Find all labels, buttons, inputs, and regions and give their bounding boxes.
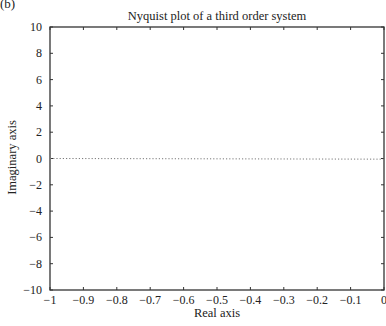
y-tick-label: −2 (29, 178, 42, 192)
x-tick-label: 0 (381, 293, 386, 307)
x-tick-label: −0.5 (206, 293, 228, 307)
y-tick-label: −6 (29, 230, 42, 244)
x-tick-label: −0.1 (340, 293, 362, 307)
x-tick-label: −0.4 (240, 293, 262, 307)
x-tick-label: −1 (44, 293, 57, 307)
y-tick-label: 0 (36, 152, 42, 166)
x-tick-label: −0.8 (106, 293, 128, 307)
y-tick-label: 6 (36, 73, 42, 87)
x-tick-label: −0.3 (273, 293, 295, 307)
x-tick-label: −0.2 (306, 293, 328, 307)
x-tick-label: −0.9 (73, 293, 95, 307)
x-tick-label: −0.7 (139, 293, 161, 307)
plot-area: −1−0.9−0.8−0.7−0.6−0.5−0.4−0.3−0.2−0.10−… (0, 0, 386, 326)
y-tick-label: −4 (29, 204, 42, 218)
y-tick-label: −10 (23, 283, 42, 297)
series-zero-line (50, 159, 384, 160)
y-tick-label: −8 (29, 257, 42, 271)
x-tick-label: −0.6 (173, 293, 195, 307)
y-tick-label: 8 (36, 46, 42, 60)
y-tick-label: 2 (36, 125, 42, 139)
y-tick-label: 10 (30, 20, 42, 34)
y-tick-label: 4 (36, 99, 42, 113)
